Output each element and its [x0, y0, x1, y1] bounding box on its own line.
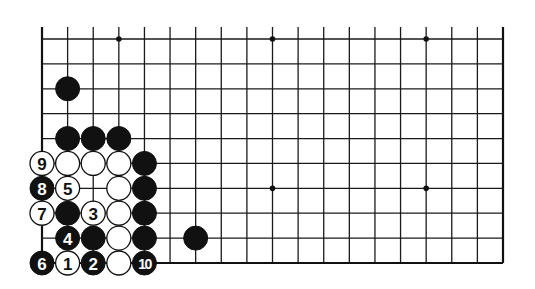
- go-board-diagram: 98573461210: [0, 0, 535, 289]
- white-stone-icon: [107, 251, 131, 275]
- black-stone: 6: [30, 251, 54, 275]
- white-stone: 5: [56, 176, 80, 200]
- black-stone-icon: [56, 77, 80, 101]
- black-stone: 4: [56, 226, 80, 250]
- star-point-icon: [270, 36, 276, 42]
- white-stone-icon: [107, 201, 131, 225]
- star-point-icon: [423, 186, 429, 192]
- white-stone: [107, 201, 131, 225]
- black-stone-icon: [132, 176, 156, 200]
- black-stone: [132, 151, 156, 175]
- white-stone-icon: [107, 226, 131, 250]
- black-stone: [56, 127, 80, 151]
- white-stone-icon: [56, 151, 80, 175]
- star-point-icon: [270, 186, 276, 192]
- black-stone: [81, 226, 105, 250]
- black-stone: 8: [30, 176, 54, 200]
- black-stone: [56, 201, 80, 225]
- white-stone: 1: [56, 251, 80, 275]
- black-stone-icon: [132, 151, 156, 175]
- white-stone: [107, 151, 131, 175]
- black-stone: [132, 226, 156, 250]
- white-stone-icon: [107, 176, 131, 200]
- white-stone: 3: [81, 201, 105, 225]
- black-stone: [132, 176, 156, 200]
- star-point-icon: [423, 36, 429, 42]
- star-point-icon: [116, 36, 122, 42]
- black-stone: [107, 127, 131, 151]
- white-stone-icon: [81, 151, 105, 175]
- move-number-label: 7: [37, 205, 46, 224]
- black-stone: 2: [81, 251, 105, 275]
- black-stone-icon: [56, 201, 80, 225]
- move-number-label: 3: [88, 205, 97, 224]
- white-stone: [107, 251, 131, 275]
- black-stone-icon: [184, 226, 208, 250]
- black-stone-icon: [132, 201, 156, 225]
- black-stone: [81, 127, 105, 151]
- move-number-label: 1: [63, 255, 72, 274]
- white-stone: [107, 176, 131, 200]
- go-board: 98573461210: [0, 0, 535, 289]
- white-stone: [81, 151, 105, 175]
- move-number-label: 5: [63, 180, 72, 199]
- black-stone-icon: [107, 127, 131, 151]
- black-stone-icon: [56, 127, 80, 151]
- white-stone: 9: [30, 151, 54, 175]
- move-number-label: 9: [37, 155, 46, 174]
- move-number-label: 10: [138, 256, 152, 272]
- white-stone: 7: [30, 201, 54, 225]
- white-stone: [107, 226, 131, 250]
- white-stone-icon: [107, 151, 131, 175]
- move-number-label: 4: [63, 230, 73, 249]
- black-stone-icon: [81, 226, 105, 250]
- black-stone: [132, 201, 156, 225]
- black-stone: [56, 77, 80, 101]
- black-stone-icon: [81, 127, 105, 151]
- move-number-label: 8: [37, 180, 46, 199]
- black-stone: 10: [132, 251, 156, 275]
- move-number-label: 2: [88, 255, 97, 274]
- white-stone: [56, 151, 80, 175]
- black-stone-icon: [132, 226, 156, 250]
- move-number-label: 6: [37, 255, 46, 274]
- black-stone: [184, 226, 208, 250]
